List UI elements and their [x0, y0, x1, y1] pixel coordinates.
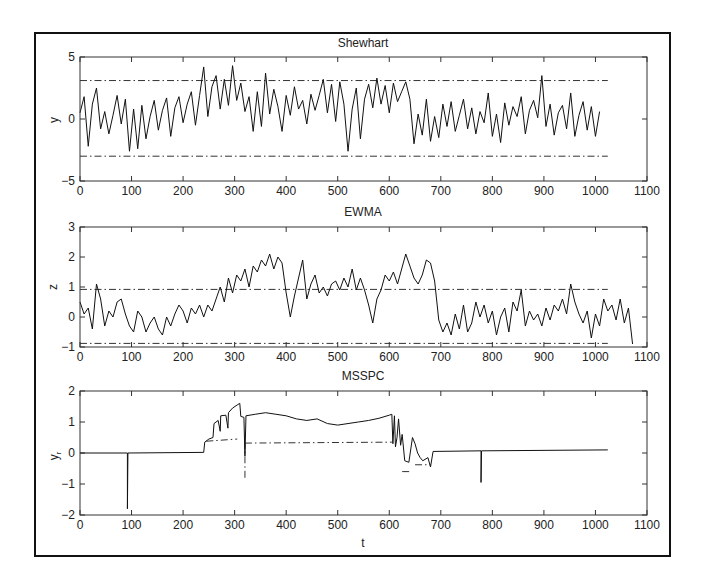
- svg-text:0: 0: [68, 446, 75, 460]
- ewma-ylabel: z: [46, 284, 60, 290]
- svg-text:0: 0: [68, 112, 75, 126]
- svg-text:100: 100: [122, 518, 142, 532]
- svg-text:700: 700: [431, 518, 451, 532]
- shewhart-series: [80, 66, 600, 152]
- svg-text:600: 600: [379, 184, 399, 198]
- svg-text:yr: yr: [47, 451, 63, 460]
- svg-text:1000: 1000: [582, 350, 609, 364]
- svg-text:700: 700: [431, 350, 451, 364]
- svg-text:500: 500: [328, 184, 348, 198]
- ewma-control-limits: [80, 289, 608, 343]
- svg-text:−1: −1: [61, 340, 75, 354]
- svg-text:2: 2: [68, 384, 75, 398]
- msspc-control-limits: [206, 439, 430, 478]
- figure: Shewhart y 01002003004005006007008009001…: [0, 0, 705, 578]
- svg-text:−1: −1: [61, 477, 75, 491]
- msspc-xlabel: t: [361, 536, 365, 550]
- svg-text:900: 900: [534, 518, 554, 532]
- msspc-panel: MSSPC yr 0100200300400500600700800900100…: [47, 369, 660, 550]
- msspc-ticks: 010020030040050060070080090010001100−2−1…: [61, 384, 660, 532]
- svg-text:−5: −5: [61, 174, 75, 188]
- svg-text:100: 100: [122, 350, 142, 364]
- shewhart-panel: Shewhart y 01002003004005006007008009001…: [47, 36, 660, 198]
- svg-text:300: 300: [225, 350, 245, 364]
- svg-text:800: 800: [482, 350, 502, 364]
- svg-text:900: 900: [534, 184, 554, 198]
- svg-text:0: 0: [77, 184, 84, 198]
- figure-frame: [35, 33, 670, 556]
- svg-text:1100: 1100: [634, 518, 660, 532]
- svg-text:2: 2: [68, 250, 75, 264]
- svg-text:600: 600: [379, 518, 399, 532]
- svg-text:200: 200: [173, 184, 193, 198]
- svg-text:3: 3: [68, 220, 75, 234]
- svg-text:600: 600: [379, 350, 399, 364]
- svg-text:800: 800: [482, 184, 502, 198]
- svg-text:1100: 1100: [634, 350, 660, 364]
- msspc-series: [80, 403, 608, 508]
- svg-text:1: 1: [68, 280, 75, 294]
- ewma-title: EWMA: [344, 205, 381, 219]
- svg-text:1100: 1100: [634, 184, 660, 198]
- svg-text:400: 400: [276, 518, 296, 532]
- svg-text:400: 400: [276, 184, 296, 198]
- svg-text:400: 400: [276, 350, 296, 364]
- svg-text:5: 5: [68, 50, 75, 64]
- ewma-series: [80, 254, 633, 344]
- svg-text:900: 900: [534, 350, 554, 364]
- ewma-ticks: 010020030040050060070080090010001100−101…: [61, 220, 660, 364]
- svg-text:200: 200: [173, 350, 193, 364]
- svg-text:500: 500: [328, 518, 348, 532]
- shewhart-axes: [80, 57, 647, 181]
- svg-text:300: 300: [225, 184, 245, 198]
- msspc-title: MSSPC: [342, 369, 385, 383]
- svg-text:700: 700: [431, 184, 451, 198]
- shewhart-ylabel: y: [47, 117, 61, 123]
- svg-text:0: 0: [68, 310, 75, 324]
- svg-text:200: 200: [173, 518, 193, 532]
- svg-text:1: 1: [68, 415, 75, 429]
- ewma-panel: EWMA z 010020030040050060070080090010001…: [46, 205, 660, 364]
- svg-text:0: 0: [77, 350, 84, 364]
- shewhart-control-limits: [80, 81, 608, 157]
- svg-text:1000: 1000: [582, 518, 609, 532]
- svg-text:300: 300: [225, 518, 245, 532]
- svg-text:800: 800: [482, 518, 502, 532]
- svg-text:500: 500: [328, 350, 348, 364]
- svg-text:0: 0: [77, 518, 84, 532]
- svg-text:100: 100: [122, 184, 142, 198]
- svg-text:−2: −2: [61, 508, 75, 522]
- shewhart-ticks: 010020030040050060070080090010001100−505: [61, 50, 660, 198]
- msspc-ylabel: yr: [47, 451, 63, 460]
- svg-text:1000: 1000: [582, 184, 609, 198]
- shewhart-title: Shewhart: [338, 36, 389, 50]
